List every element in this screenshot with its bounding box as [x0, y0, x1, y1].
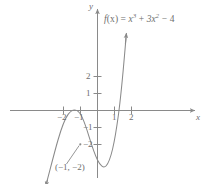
fn-equals: =	[118, 14, 128, 24]
annotation-leader-line	[67, 143, 82, 164]
fn-arg-open: (x	[107, 14, 115, 24]
y-tick-label-1: 1	[86, 89, 91, 98]
local-max-point-label: (−1, −2)	[55, 163, 85, 172]
fn-constant: 4	[170, 14, 175, 24]
fn-plus: +	[136, 14, 146, 24]
x-tick-label-2: 2	[129, 113, 134, 122]
y-axis-label: y	[89, 2, 93, 11]
x-axis-label: x	[196, 113, 200, 122]
x-tick-label-1: 1	[112, 113, 117, 122]
plot-canvas	[0, 0, 208, 184]
fn-term2-coef: 3x	[147, 14, 156, 24]
y-tick-label-minus2: −2	[83, 140, 93, 149]
fn-minus: −	[159, 14, 169, 24]
function-equation-label: f(x) = x3 + 3x2 − 4	[104, 13, 174, 25]
x-tick-label-minus1: −1	[74, 113, 84, 122]
y-tick-label-2: 2	[86, 72, 91, 81]
y-tick-label-minus1: −1	[83, 123, 93, 132]
x-axis	[10, 107, 195, 115]
cubic-function-graph: −2 −1 1 2 2 1 −1 −2 x y f(x) = x3 + 3x2 …	[0, 0, 208, 184]
x-tick-label-minus2: −2	[57, 113, 67, 122]
